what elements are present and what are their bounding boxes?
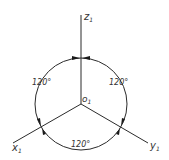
isometric-axes-diagram: z1 x1 y1 o1 120° 120° 120° — [0, 0, 169, 160]
y-axis — [81, 104, 148, 143]
angle-label-zy: 120° — [109, 78, 128, 87]
arrowhead-icon — [42, 128, 46, 135]
arrowhead-icon — [121, 118, 125, 126]
z-axis-label: z1 — [83, 11, 93, 23]
arrowhead-icon — [116, 128, 120, 135]
y-axis-label: y1 — [149, 140, 160, 152]
angle-label-zx: 120° — [32, 78, 51, 87]
origin-label: o1 — [82, 94, 91, 105]
x-axis — [13, 104, 81, 143]
arrowhead-icon — [37, 118, 41, 126]
arrowhead-icon — [72, 56, 80, 60]
x-axis-label: x1 — [11, 142, 22, 154]
angle-label-xy: 120° — [71, 140, 90, 149]
arrowhead-icon — [82, 56, 90, 60]
